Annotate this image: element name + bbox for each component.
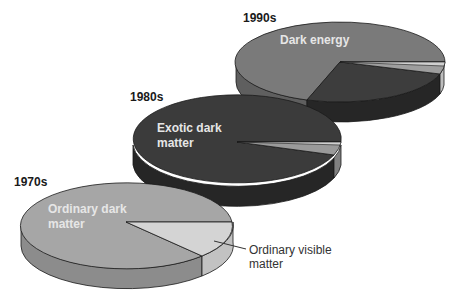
year-label-1990s: 1990s [243, 11, 277, 25]
slice-label-ordinary-dark-line2: matter [48, 217, 85, 231]
callout-label-line1: Ordinary visible [249, 243, 332, 257]
slice-label-dark-energy: Dark energy [280, 33, 350, 47]
pie-chart-stack: 1990s Dark energy 1980s Exotic dark matt… [0, 0, 455, 292]
year-label-1970s: 1970s [14, 175, 48, 189]
callout-label-line2: matter [249, 257, 283, 271]
slice-label-ordinary-dark-line1: Ordinary dark [48, 202, 127, 216]
year-label-1980s: 1980s [130, 90, 164, 104]
slice-label-exotic-line2: matter [157, 136, 194, 150]
slice-label-exotic-line1: Exotic dark [157, 121, 222, 135]
